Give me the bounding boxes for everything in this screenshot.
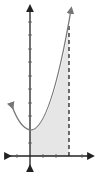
shaded-region	[30, 28, 69, 156]
area-under-curve-diagram	[0, 0, 97, 174]
